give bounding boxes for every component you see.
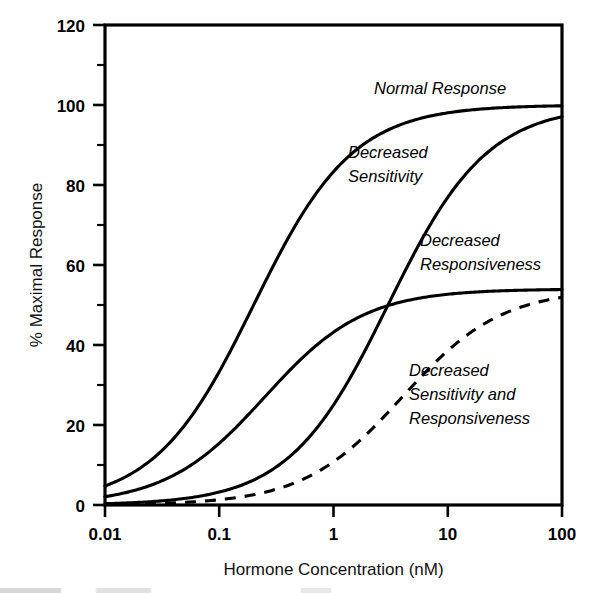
label-decreased-both-line2: Sensitivity and (409, 385, 516, 403)
x-axis-title: Hormone Concentration (nM) (223, 560, 443, 579)
label-normal-response: Normal Response (374, 79, 506, 97)
curve-decreased-sensitivity (105, 117, 562, 504)
chart-canvas: 120 100 80 60 40 20 0 0.01 0.1 1 10 100 … (0, 0, 590, 593)
y-tick-label-120: 120 (57, 17, 85, 36)
y-axis-tick-labels: 120 100 80 60 40 20 0 (57, 17, 85, 516)
label-decreased-responsiveness-line1: Decreased (420, 231, 501, 249)
x-tick-label-0-1: 0.1 (207, 525, 231, 544)
y-tick-label-80: 80 (66, 177, 85, 196)
x-tick-label-0-01: 0.01 (88, 525, 121, 544)
x-axis-tick-labels: 0.01 0.1 1 10 100 (88, 525, 576, 544)
y-axis-major-ticks (93, 25, 105, 505)
curve-normal-response (105, 106, 562, 486)
label-decreased-sensitivity-line2: Sensitivity (348, 167, 424, 185)
curves-group (105, 106, 562, 505)
label-decreased-both-line3: Responsiveness (409, 409, 530, 427)
x-axis-ticks (105, 505, 562, 517)
x-tick-label-100: 100 (548, 525, 576, 544)
label-decreased-both-line1: Decreased (409, 361, 490, 379)
y-tick-label-60: 60 (66, 257, 85, 276)
curve-annotations: Normal Response Decreased Sensitivity De… (348, 79, 541, 427)
y-tick-label-40: 40 (66, 337, 85, 356)
x-tick-label-10: 10 (438, 525, 457, 544)
hormone-dose-response-figure: 120 100 80 60 40 20 0 0.01 0.1 1 10 100 … (0, 0, 590, 593)
label-decreased-responsiveness-line2: Responsiveness (420, 255, 541, 273)
y-tick-label-20: 20 (66, 417, 85, 436)
y-tick-label-0: 0 (76, 497, 85, 516)
x-tick-label-1: 1 (329, 525, 338, 544)
y-tick-label-100: 100 (57, 97, 85, 116)
y-axis-title: % Maximal Response (27, 183, 46, 347)
scan-artifact-strip (0, 588, 590, 593)
label-decreased-sensitivity-line1: Decreased (348, 143, 429, 161)
